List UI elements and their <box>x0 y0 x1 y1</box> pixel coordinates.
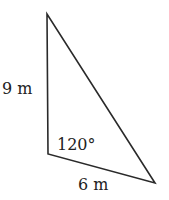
side-label-left: 9 m <box>2 79 32 98</box>
angle-label: 120° <box>57 135 96 154</box>
triangle <box>47 14 155 183</box>
triangle-diagram: 9 m 120° 6 m <box>0 0 169 200</box>
side-label-bottom: 6 m <box>78 175 108 194</box>
